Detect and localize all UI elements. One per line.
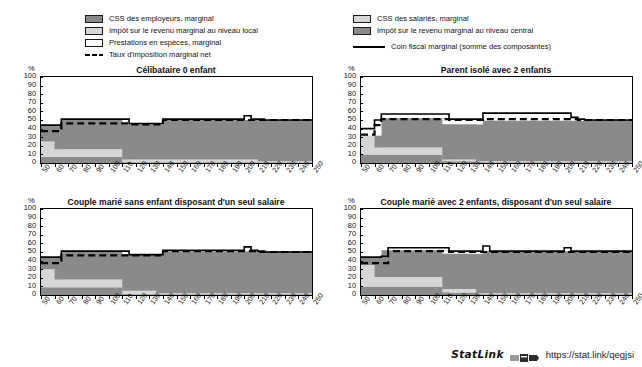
legend-item[interactable]: Coin fiscal marginal (somme des composan… [353, 41, 551, 52]
chart-svg [41, 77, 312, 163]
plot-area [40, 76, 313, 164]
y-axis-tick-label: 0 [16, 290, 36, 297]
y-axis-tick-label: 0 [16, 158, 36, 165]
y-axis-tick-label: 100 [16, 204, 36, 211]
y-axis-tick-mark [40, 129, 43, 130]
y-axis-tick-mark [40, 77, 43, 78]
y-axis-tick-label: 20 [336, 141, 356, 148]
y-axis-tick-mark [360, 226, 363, 227]
y-axis-tick-label: 40 [336, 256, 356, 263]
y-axis-tick-mark [40, 278, 43, 279]
x-axis: 5060708090100110120130140150160170180190… [40, 297, 313, 323]
y-axis-tick-label: 60 [336, 107, 356, 114]
plot-canvas [40, 208, 313, 296]
y-axis-tick-label: 100 [336, 204, 356, 211]
y-axis-tick-mark [360, 77, 363, 78]
y-axis-tick-label: 80 [336, 222, 356, 229]
y-axis-tick-mark [360, 137, 363, 138]
chart-svg [361, 77, 632, 163]
y-axis-tick-label: 50 [16, 247, 36, 254]
legend-item-label: Taux d'imposition marginal net [109, 50, 211, 59]
y-axis-tick-label: 80 [16, 90, 36, 97]
x-axis-tick-label: 90 [414, 294, 426, 306]
y-axis-tick-label: 50 [336, 247, 356, 254]
y-axis: 1009080706050403020100 [14, 76, 40, 164]
y-axis-tick-label: 80 [16, 222, 36, 229]
y-axis-tick-label: 10 [336, 282, 356, 289]
statlink-url: https://stat.link/qegjsi [546, 349, 634, 360]
y-axis-tick-mark [360, 252, 363, 253]
legend-column-right: CSS des salariés, marginalImpôt sur le r… [353, 13, 551, 53]
y-axis-tick-label: 30 [16, 133, 36, 140]
x-axis-tick-label: 50 [360, 162, 372, 174]
chart-title: Célibataire 0 enfant [40, 65, 312, 75]
legend-item[interactable]: CSS des salariés, marginal [353, 13, 551, 24]
chart-legend: CSS des employeurs, marginalImpôt sur le… [0, 13, 642, 61]
y-axis-tick-mark [40, 235, 43, 236]
statlink-label: StatLink [451, 348, 504, 360]
y-axis-tick-mark [40, 209, 43, 210]
y-axis-tick-mark [360, 286, 363, 287]
plot-area [360, 208, 633, 296]
legend-swatch-white [85, 39, 103, 47]
y-axis-tick-mark [360, 278, 363, 279]
plot-area [40, 208, 313, 296]
y-axis-tick-mark [360, 111, 363, 112]
legend-item-label: CSS des employeurs, marginal [109, 14, 214, 23]
y-axis-tick-label: 70 [16, 230, 36, 237]
x-axis-tick-label: 90 [414, 162, 426, 174]
y-axis-tick-label: 60 [16, 239, 36, 246]
y-axis-tick-label: 40 [16, 124, 36, 131]
y-axis-tick-mark [360, 235, 363, 236]
y-axis-tick-mark [360, 120, 363, 121]
x-axis-tick-label: 50 [40, 162, 52, 174]
legend-item[interactable]: CSS des employeurs, marginal [85, 13, 258, 24]
y-axis-tick-mark [40, 286, 43, 287]
y-axis-tick-label: 30 [336, 133, 356, 140]
y-axis-tick-mark [360, 86, 363, 87]
y-axis-tick-mark [40, 218, 43, 219]
legend-item[interactable]: Prestations en espèces, marginal [85, 37, 258, 48]
x-axis: 5060708090100110120130140150160170180190… [360, 297, 633, 323]
legend-item-label: Impôt sur le revenu marginal au niveau c… [377, 26, 533, 35]
y-axis-tick-label: 90 [336, 213, 356, 220]
y-axis-tick-mark [360, 218, 363, 219]
y-axis-tick-label: 90 [16, 213, 36, 220]
legend-item[interactable]: Impôt sur le revenu marginal au niveau l… [85, 25, 258, 36]
y-axis-tick-mark [40, 137, 43, 138]
y-axis-tick-label: 20 [16, 273, 36, 280]
y-axis-tick-label: 80 [336, 90, 356, 97]
y-axis-tick-label: 100 [16, 72, 36, 79]
x-axis: 5060708090100110120130140150160170180190… [40, 165, 313, 191]
y-axis: 1009080706050403020100 [334, 76, 360, 164]
y-axis-tick-label: 20 [16, 141, 36, 148]
x-axis-tick-label: 90 [94, 294, 106, 306]
y-axis-tick-label: 70 [336, 230, 356, 237]
y-axis-tick-label: 40 [336, 124, 356, 131]
chart-title: Couple marié avec 2 enfants, disposant d… [360, 197, 632, 207]
y-axis-tick-mark [360, 103, 363, 104]
y-axis-tick-mark [360, 209, 363, 210]
y-axis-tick-mark [360, 129, 363, 130]
y-axis-tick-mark [40, 252, 43, 253]
y-axis-tick-mark [40, 269, 43, 270]
y-axis-tick-mark [40, 261, 43, 262]
legend-item[interactable]: Taux d'imposition marginal net [85, 49, 258, 60]
legend-dashed-line-icon [85, 51, 103, 59]
legend-item-label: Prestations en espèces, marginal [109, 38, 221, 47]
statlink-icon [510, 349, 540, 359]
x-axis-tick-label: 70 [67, 294, 79, 306]
x-axis-tick-label: 250 [311, 159, 325, 174]
plot-canvas [360, 76, 633, 164]
cut-off-header-text [0, 0, 642, 10]
y-axis-tick-mark [360, 243, 363, 244]
legend-item[interactable]: Impôt sur le revenu marginal au niveau c… [353, 25, 551, 36]
y-axis-tick-label: 50 [336, 115, 356, 122]
legend-solid-line-icon [353, 43, 385, 51]
y-axis-tick-label: 70 [16, 98, 36, 105]
x-axis-tick-label: 50 [360, 294, 372, 306]
y-axis-tick-mark [40, 243, 43, 244]
legend-item-label: CSS des salariés, marginal [377, 14, 469, 23]
y-axis-tick-mark [40, 226, 43, 227]
x-axis-tick-label: 50 [40, 294, 52, 306]
